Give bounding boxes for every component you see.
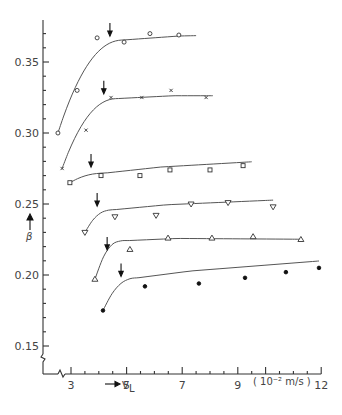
y-axis-break (41, 354, 45, 374)
series-6-fit-curve (103, 261, 319, 311)
labels: β V L ( 10⁻² m/s ) (25, 214, 311, 394)
x-label-arrowhead (115, 382, 120, 387)
series-1-point (148, 32, 152, 36)
series-2-arrow-head (102, 89, 106, 94)
series-3-arrow-head (89, 162, 93, 167)
series-1-point (56, 131, 60, 135)
axes: 0.150.200.250.300.35357912 (15, 20, 329, 392)
y-tick-label: 0.20 (15, 269, 40, 282)
arrows (89, 23, 123, 276)
y-tick-label: 0.25 (15, 198, 40, 211)
series-1-arrow-head (108, 31, 112, 36)
series-4-point (112, 215, 118, 220)
series-6-point (197, 282, 201, 286)
y-tick-label: 0.30 (15, 127, 40, 140)
series-2-point (169, 89, 172, 92)
series-1-point (122, 40, 126, 44)
x-tick-label: 3 (68, 379, 75, 392)
series-6-point (143, 285, 147, 289)
series-3-point (208, 168, 212, 172)
series-1-fit-curve (58, 36, 196, 133)
series-4-point (82, 230, 88, 235)
series-3-point (99, 174, 103, 178)
series-3-point (68, 181, 72, 185)
x-tick-label: 7 (179, 379, 186, 392)
series-6-point (284, 270, 288, 274)
series-4-point (270, 205, 276, 210)
markers (56, 32, 321, 313)
series-5-point (127, 246, 133, 251)
series-4-point (225, 201, 231, 206)
series-6-point (243, 276, 247, 280)
series-1-point (75, 88, 79, 92)
x-tick-label: 9 (234, 379, 241, 392)
x-axis-break (58, 370, 65, 377)
series-6-point (317, 266, 321, 270)
x-tick-label: 12 (314, 379, 328, 392)
series-5-point (250, 234, 256, 239)
series-2-fit-curve (62, 96, 213, 169)
x-axis-unit: ( 10⁻² m/s ) (253, 376, 311, 387)
series-5-fit-curve (95, 238, 301, 279)
x-axis-label: V (122, 380, 129, 391)
x-axis-label-subscript: L (129, 383, 135, 394)
y-label-arrowhead (27, 214, 33, 220)
series-6-point (101, 309, 105, 313)
series-5-point (92, 276, 98, 281)
series-1-point (95, 36, 99, 40)
series-6-arrow-head (119, 271, 123, 276)
series-1-point (177, 33, 181, 37)
y-tick-label: 0.35 (15, 56, 40, 69)
series-5-point (209, 235, 215, 240)
curves (58, 36, 319, 311)
series-4-arrow-head (95, 201, 99, 206)
series-5-point (165, 235, 171, 240)
series-3-point (241, 164, 245, 168)
y-tick-label: 0.15 (15, 340, 40, 353)
series-2-point (84, 129, 87, 132)
chart: 0.150.200.250.300.35357912 β V L ( 10⁻² … (0, 0, 342, 415)
series-4-point (153, 213, 159, 218)
series-2-point (109, 96, 112, 99)
series-2-point (205, 96, 208, 99)
series-4-point (188, 202, 194, 207)
series-3-fit-curve (70, 162, 252, 183)
series-3-point (168, 168, 172, 172)
y-axis-label: β (25, 231, 33, 242)
series-3-point (138, 174, 142, 178)
